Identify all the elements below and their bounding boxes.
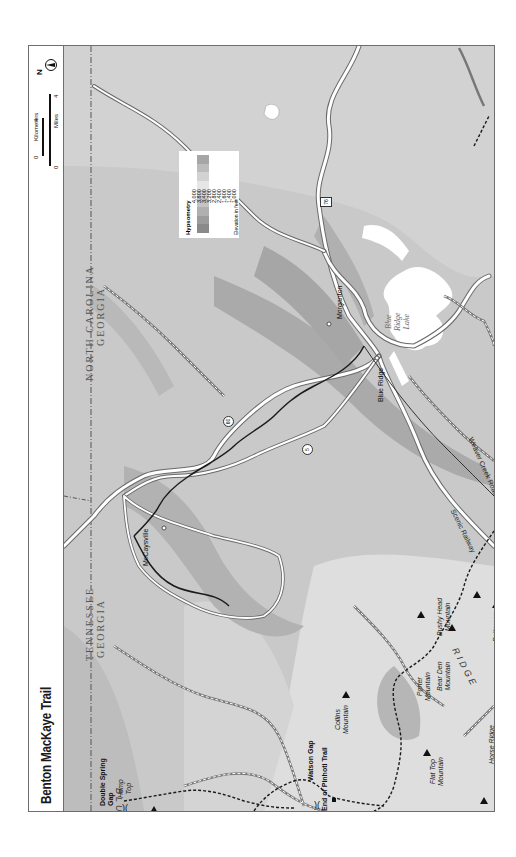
label-double-spring-gap: Double Spring Gap: [99, 758, 115, 806]
svg-text:)(: )(: [314, 800, 320, 810]
map-canvas[interactable]: )( )( Hypsometry 4,000 3,800 3,400 3,200: [64, 46, 494, 811]
hypsometry-legend: Hypsometry 4,000 3,800 3,400 3,200 2,800…: [179, 151, 239, 238]
town-dot-morganton: [327, 322, 331, 326]
title-band: Benton MacKaye Trail 0 Kilometers 4 0 Mi…: [29, 46, 64, 811]
scale-mi-bar: [49, 94, 51, 166]
label-collins-mountain: Collins Mountain: [334, 705, 350, 734]
label-watson-gap: Watson Gap: [307, 740, 315, 781]
highway-shield-5: 5: [302, 444, 313, 455]
north-arrow-icon: [44, 58, 58, 72]
scale-mi-label: Miles: [53, 114, 59, 128]
pinhoti-end-marker: [332, 798, 336, 802]
map-frame: Benton MacKaye Trail 0 Kilometers 4 0 Mi…: [28, 45, 495, 812]
state-label-georgia-east: GEORGIA: [95, 287, 106, 346]
state-label-tennessee: TENNESSEE: [84, 587, 95, 661]
label-blue-ridge-west: BLUE RIDGE: [114, 788, 124, 811]
highway-shield-60-west: 60: [223, 416, 234, 427]
scale-km-start: 0: [33, 156, 39, 159]
town-label-blue-ridge: Blue Ridge: [377, 368, 384, 402]
highway-shield-76: 76: [320, 197, 332, 207]
town-label-mccaysville: McCaysville: [142, 529, 149, 566]
legend-unit: Elevation in feet: [233, 199, 239, 235]
label-horse-ridge: Horse Ridge: [488, 725, 494, 764]
label-flat-top-mountain: Flat Top Mountain: [429, 757, 445, 786]
scale-mi-end: 4: [53, 95, 59, 98]
lake-label: Blue Ridge Lake: [384, 312, 411, 331]
map-title: Benton MacKaye Trail: [37, 687, 54, 804]
label-porter-mountain: Porter Mountain: [416, 672, 432, 701]
state-label-north-carolina: NORTH CAROLINA: [84, 265, 95, 381]
north-label: N: [35, 69, 44, 75]
scale-mi-start: 0: [53, 166, 59, 169]
town-dot-blue-ridge: [375, 356, 379, 360]
state-label-georgia-west: GEORGIA: [95, 599, 106, 658]
town-dot-mccaysville: [162, 526, 166, 530]
label-bushy-head-mountain: Bushy Head Mountain: [436, 598, 452, 636]
label-bear-den-mountain: Bear Den Mountain: [436, 661, 452, 691]
scale-km-label: Kilometers: [33, 113, 39, 141]
legend-title: Hypsometry: [185, 200, 191, 235]
label-end-of-pinhoti-trail: End of Pinhoti Trail: [321, 747, 329, 811]
label-patterson-mountain: Patterson Mountain: [492, 612, 494, 642]
scale-km-bar: [42, 118, 44, 156]
town-label-morganton: Morganton: [336, 286, 343, 319]
scale-km-end: 4: [33, 119, 39, 122]
